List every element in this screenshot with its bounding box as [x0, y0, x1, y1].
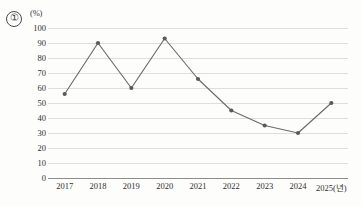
x-axis-line	[48, 178, 348, 179]
data-point-marker	[263, 123, 267, 127]
x-tick-label: 2022	[223, 181, 240, 191]
y-tick-label: 40	[2, 113, 46, 123]
y-tick-label: 30	[2, 128, 46, 138]
data-point-marker	[96, 41, 100, 45]
x-tick-label: 2023	[256, 181, 273, 191]
data-point-marker	[63, 92, 67, 96]
x-tick-label: 2018	[90, 181, 107, 191]
data-point-marker	[163, 36, 167, 40]
y-tick-label: 0	[2, 173, 46, 183]
x-tick-label: 2021	[190, 181, 207, 191]
y-axis-unit-label: (%)	[30, 8, 42, 18]
x-tick-label: 2024	[290, 181, 307, 191]
x-tick-label: 2025(년)	[316, 181, 347, 193]
line-series	[48, 28, 348, 178]
y-tick-label: 50	[2, 98, 46, 108]
plot-area	[48, 28, 348, 178]
y-tick-label: 100	[2, 23, 46, 33]
data-point-marker	[229, 108, 233, 112]
y-tick-label: 60	[2, 83, 46, 93]
y-tick-label: 70	[2, 68, 46, 78]
y-axis-tick-labels: 1009080706050403020100	[0, 28, 46, 178]
x-tick-label: 2019	[123, 181, 140, 191]
data-point-marker	[296, 131, 300, 135]
y-tick-label: 80	[2, 53, 46, 63]
y-tick-label: 90	[2, 38, 46, 48]
x-tick-label: 2017	[56, 181, 73, 191]
data-point-marker	[329, 101, 333, 105]
data-point-marker	[129, 86, 133, 90]
chart-figure: ① (%) 1009080706050403020100 20172018201…	[0, 0, 361, 206]
series-line-path	[65, 39, 332, 134]
data-point-marker	[196, 77, 200, 81]
y-tick-label: 10	[2, 158, 46, 168]
x-tick-label: 2020	[156, 181, 173, 191]
y-tick-label: 20	[2, 143, 46, 153]
x-axis-tick-labels: 201720182019202020212022202320242025(년)	[48, 181, 348, 201]
